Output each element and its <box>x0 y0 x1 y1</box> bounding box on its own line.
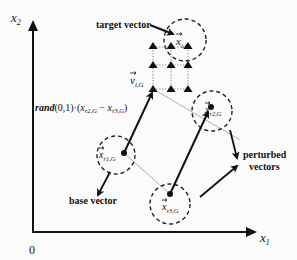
scaled-difference-label: rand(0,1)·(xr2,G − xr3,G) <box>35 102 127 114</box>
r3-vector-region <box>150 184 190 224</box>
origin-label: 0 <box>29 243 35 257</box>
differential-evolution-diagram: x2 x1 0 target vector base vector pertur <box>0 0 297 260</box>
target-point-label: xi,G <box>175 35 190 50</box>
x-axis-label: x1 <box>259 230 270 247</box>
perturbed-pointer-upper <box>230 130 237 158</box>
r3-point-label: xr3,G <box>161 201 179 214</box>
base-vector-label: base vector <box>69 195 118 206</box>
target-vector-label: target vector <box>96 19 151 30</box>
perturbed-pointer-lower <box>200 166 237 197</box>
mutant-vector-label: vi,G <box>130 74 144 89</box>
base-guide-line <box>124 153 170 194</box>
base-vector-pointer <box>98 172 110 195</box>
perturbed-vectors-label-1: perturbed <box>243 149 287 160</box>
perturbed-vectors-label-2: vectors <box>249 161 280 172</box>
diagram-canvas: x2 x1 0 target vector base vector pertur <box>0 0 297 260</box>
target-vector-region <box>164 19 206 61</box>
base-point-label: xr1,G <box>98 149 116 162</box>
axes <box>32 22 255 233</box>
difference-vector-arrow <box>170 112 208 194</box>
difference-guide-line <box>153 89 240 140</box>
mutant-vector-arrow <box>124 93 152 153</box>
y-axis-label: x2 <box>10 10 21 27</box>
